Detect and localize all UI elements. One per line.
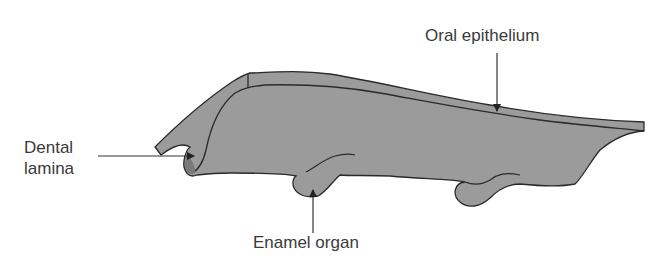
enamel-organ-label: Enamel organ [253,232,359,253]
dental-lamina-label: Dental lamina [24,137,74,179]
dental-lamina-label-line2: lamina [24,158,74,179]
oral-epithelium-label: Oral epithelium [425,25,539,46]
dental-lamina-label-line1: Dental [24,137,74,158]
oral-tissue-shape [155,72,644,207]
